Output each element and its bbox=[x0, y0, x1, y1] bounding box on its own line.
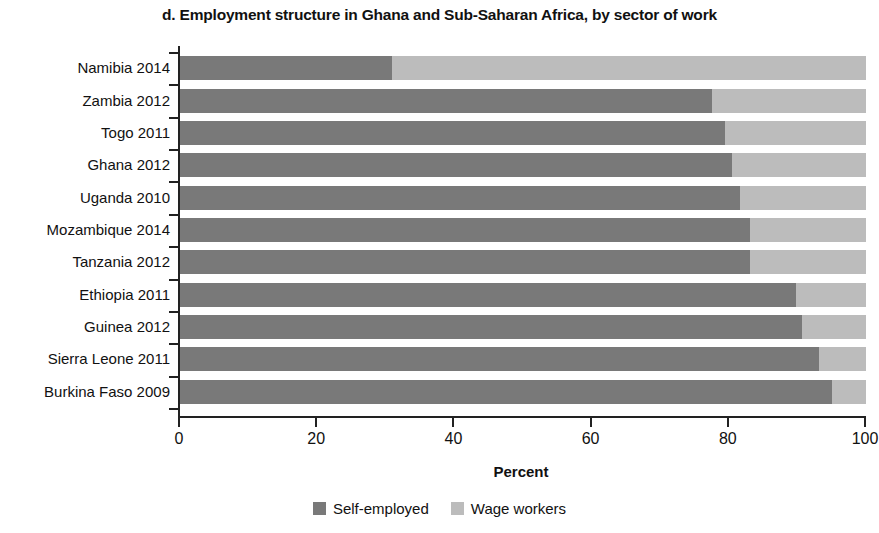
bar-segment-wage-workers bbox=[732, 153, 866, 177]
x-axis-line bbox=[178, 416, 866, 418]
bar-row bbox=[180, 153, 864, 177]
chart-title: d. Employment structure in Ghana and Sub… bbox=[0, 6, 879, 24]
y-axis-tick bbox=[169, 279, 178, 281]
legend-label: Wage workers bbox=[471, 500, 566, 517]
bar-row bbox=[180, 283, 864, 307]
y-axis-label: Ethiopia 2011 bbox=[2, 286, 170, 303]
x-axis-tick-label: 0 bbox=[149, 430, 209, 448]
bar-segment-self-employed bbox=[180, 347, 819, 371]
x-axis-tick-label: 100 bbox=[835, 430, 879, 448]
x-axis-tick-label: 20 bbox=[286, 430, 346, 448]
y-axis-label: Togo 2011 bbox=[2, 124, 170, 141]
y-axis-tick bbox=[169, 311, 178, 313]
bar-segment-self-employed bbox=[180, 315, 802, 339]
bar-row bbox=[180, 347, 864, 371]
legend-item: Wage workers bbox=[451, 500, 566, 517]
y-axis-label: Sierra Leone 2011 bbox=[2, 350, 170, 367]
bar-row bbox=[180, 186, 864, 210]
bar-segment-self-employed bbox=[180, 121, 725, 145]
x-axis-tick-label: 60 bbox=[561, 430, 621, 448]
y-axis-label: Burkina Faso 2009 bbox=[2, 383, 170, 400]
legend-swatch-icon bbox=[313, 502, 326, 515]
y-axis-label: Zambia 2012 bbox=[2, 92, 170, 109]
x-axis-tick bbox=[864, 418, 866, 427]
bar-segment-wage-workers bbox=[725, 121, 866, 145]
x-axis-tick bbox=[452, 418, 454, 427]
bar-segment-self-employed bbox=[180, 380, 832, 404]
bar-segment-wage-workers bbox=[750, 218, 866, 242]
bar-segment-self-employed bbox=[180, 89, 712, 113]
bar-segment-self-employed bbox=[180, 56, 392, 80]
y-axis-tick bbox=[169, 376, 178, 378]
bar-segment-self-employed bbox=[180, 153, 732, 177]
y-axis-tick bbox=[169, 149, 178, 151]
y-axis-label: Tanzania 2012 bbox=[2, 253, 170, 270]
bar-segment-self-employed bbox=[180, 283, 796, 307]
bar-row bbox=[180, 380, 864, 404]
bar-row bbox=[180, 89, 864, 113]
bar-row bbox=[180, 121, 864, 145]
legend-swatch-icon bbox=[451, 502, 464, 515]
bar-segment-wage-workers bbox=[392, 56, 866, 80]
y-axis-tick bbox=[169, 246, 178, 248]
bar-row bbox=[180, 315, 864, 339]
bar-segment-wage-workers bbox=[802, 315, 866, 339]
x-axis-tick bbox=[315, 418, 317, 427]
x-axis-tick bbox=[178, 418, 180, 427]
bar-row bbox=[180, 218, 864, 242]
y-axis-tick bbox=[169, 117, 178, 119]
y-axis-tick bbox=[169, 343, 178, 345]
x-axis-title: Percent bbox=[178, 463, 864, 480]
y-axis-label: Guinea 2012 bbox=[2, 318, 170, 335]
bar-segment-wage-workers bbox=[819, 347, 866, 371]
y-axis-tick bbox=[169, 181, 178, 183]
y-axis-label: Namibia 2014 bbox=[2, 59, 170, 76]
x-axis-tick bbox=[727, 418, 729, 427]
plot-area: 020406080100 bbox=[178, 46, 864, 418]
bar-row bbox=[180, 250, 864, 274]
chart-figure: d. Employment structure in Ghana and Sub… bbox=[0, 0, 879, 533]
bar-segment-wage-workers bbox=[740, 186, 866, 210]
y-axis-labels: Namibia 2014Zambia 2012Togo 2011Ghana 20… bbox=[0, 46, 170, 418]
chart-legend: Self-employedWage workers bbox=[0, 500, 879, 517]
bar-segment-self-employed bbox=[180, 218, 750, 242]
legend-label: Self-employed bbox=[333, 500, 429, 517]
bar-segment-wage-workers bbox=[712, 89, 866, 113]
x-axis-tick bbox=[590, 418, 592, 427]
legend-item: Self-employed bbox=[313, 500, 429, 517]
x-axis-tick-label: 40 bbox=[423, 430, 483, 448]
y-axis-label: Uganda 2010 bbox=[2, 189, 170, 206]
y-axis-tick bbox=[169, 408, 178, 410]
x-axis-tick-label: 80 bbox=[698, 430, 758, 448]
bar-segment-wage-workers bbox=[796, 283, 866, 307]
y-axis-tick bbox=[169, 52, 178, 54]
bar-segment-wage-workers bbox=[750, 250, 866, 274]
bar-segment-self-employed bbox=[180, 250, 750, 274]
bar-segment-wage-workers bbox=[832, 380, 866, 404]
y-axis-label: Ghana 2012 bbox=[2, 156, 170, 173]
bar-segment-self-employed bbox=[180, 186, 740, 210]
y-axis-tick bbox=[169, 214, 178, 216]
bar-row bbox=[180, 56, 864, 80]
y-axis-tick bbox=[169, 84, 178, 86]
y-axis-label: Mozambique 2014 bbox=[2, 221, 170, 238]
